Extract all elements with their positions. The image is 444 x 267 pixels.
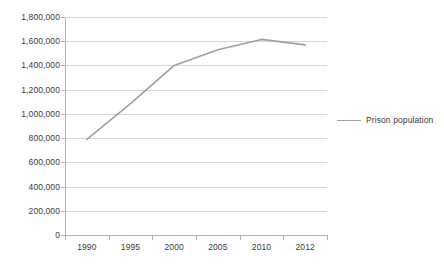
- y-axis-label: 800,000: [2, 134, 60, 143]
- x-axis-tick: [327, 236, 328, 240]
- y-axis-label: 1,800,000: [2, 13, 60, 22]
- x-axis-tick: [109, 236, 110, 240]
- x-axis-tick: [196, 236, 197, 240]
- x-axis-label: 2000: [165, 243, 184, 252]
- x-axis-tick: [152, 236, 153, 240]
- legend-label-prison-population: Prison population: [366, 116, 433, 125]
- y-axis-label: 600,000: [2, 158, 60, 167]
- x-axis-label: 1995: [121, 243, 140, 252]
- plot-area: [65, 17, 327, 235]
- x-axis-tick: [65, 236, 66, 240]
- y-axis-labels: 0200,000400,000600,000800,0001,000,0001,…: [0, 17, 60, 235]
- x-axis-label: 2005: [208, 243, 227, 252]
- prison-population-line-chart: 0200,000400,000600,000800,0001,000,0001,…: [0, 0, 444, 267]
- y-axis-label: 1,000,000: [2, 110, 60, 119]
- x-axis-label: 2010: [252, 243, 271, 252]
- series-layer: [65, 17, 327, 235]
- x-axis-label: 2012: [296, 243, 315, 252]
- x-axis-tick: [283, 236, 284, 240]
- y-axis-label: 1,600,000: [2, 37, 60, 46]
- y-axis-label: 200,000: [2, 207, 60, 216]
- legend-swatch-prison-population: [337, 120, 361, 121]
- y-axis-label: 1,400,000: [2, 61, 60, 70]
- series-line-prison-population: [87, 39, 305, 139]
- y-axis-label: 1,200,000: [2, 86, 60, 95]
- y-axis-label: 400,000: [2, 183, 60, 192]
- x-axis-tick: [240, 236, 241, 240]
- y-axis-label: 0: [2, 231, 60, 240]
- legend: Prison population: [337, 116, 433, 125]
- x-axis-label: 1990: [77, 243, 96, 252]
